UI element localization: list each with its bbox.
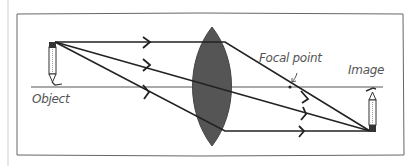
focal-point-label: Focal point <box>259 51 322 65</box>
ray-diagram: Object Focal point Image <box>0 0 412 166</box>
focal-pointer-arrow-icon <box>292 73 297 82</box>
object-pencil-icon <box>49 42 62 85</box>
arrow-icon <box>301 107 306 120</box>
image-label: Image <box>348 63 384 77</box>
diagram-canvas <box>0 0 412 166</box>
focal-point-marker <box>288 85 291 88</box>
image-pencil-icon <box>366 88 376 132</box>
object-label: Object <box>32 92 69 106</box>
